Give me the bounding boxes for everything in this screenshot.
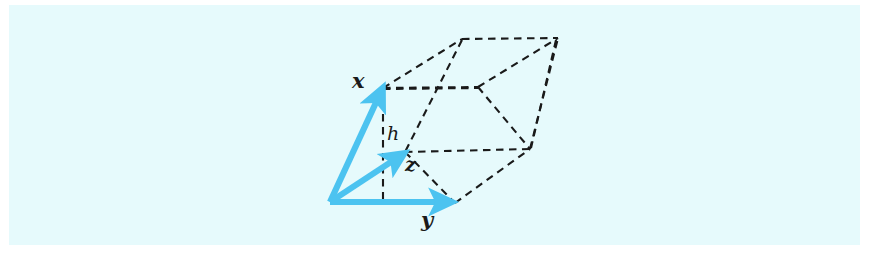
edge-slant-mid bbox=[478, 87, 530, 149]
edge-bottom-right bbox=[455, 149, 530, 203]
label-vector-y: y bbox=[421, 209, 433, 230]
label-vector-z: z bbox=[405, 155, 416, 174]
label-height-h: h bbox=[387, 124, 399, 143]
edge-topbackleft-topbackright bbox=[462, 38, 558, 39]
parallelepiped-diagram bbox=[0, 0, 882, 262]
edge-ztip-right-horizontal bbox=[405, 149, 530, 152]
figure-root: x y z h bbox=[0, 0, 882, 262]
parallelepiped-wireframe bbox=[383, 38, 558, 203]
edge-front-top-horizontal bbox=[383, 88, 478, 89]
label-vector-x: x bbox=[352, 70, 365, 91]
edge-vertical-right bbox=[531, 40, 556, 148]
